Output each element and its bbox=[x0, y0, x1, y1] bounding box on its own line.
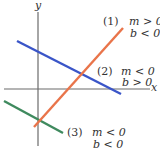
line-1-intercept-condition: b < 0 bbox=[130, 28, 160, 40]
line-1-number: (1) bbox=[103, 16, 119, 28]
line-2-intercept-condition: b > 0 bbox=[122, 77, 152, 89]
line-2-number: (2) bbox=[97, 66, 113, 78]
y-axis-label: y bbox=[35, 0, 41, 12]
line-3-number: (3) bbox=[67, 127, 83, 139]
line-3-intercept-condition: b < 0 bbox=[93, 139, 123, 151]
